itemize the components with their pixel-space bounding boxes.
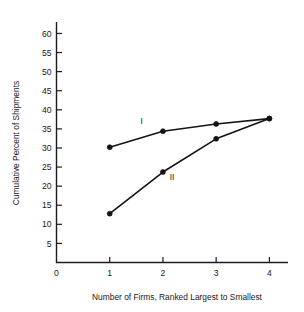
y-tick-label: 35 [42,124,52,134]
chart-tick-marks [57,33,270,262]
x-axis-title: Number of Firms, Ranked Largest to Small… [92,292,263,302]
y-tick-label: 10 [42,219,52,229]
series-label-I: I [140,116,142,126]
y-tick-label: 30 [42,143,52,153]
data-point-marker [267,116,272,121]
chart-axes [57,22,289,263]
y-tick-label: 20 [42,181,52,191]
chart-figure: 51015202530354045505560 01234 III Number… [0,0,304,312]
y-axis-tick-labels: 51015202530354045505560 [42,29,52,249]
data-point-marker [107,211,112,216]
data-point-marker [107,145,112,150]
x-axis-tick-labels: 01234 [54,268,272,278]
y-tick-label: 60 [42,29,52,39]
y-tick-label: 25 [42,162,52,172]
x-tick-label: 2 [161,268,166,278]
x-tick-label: 0 [54,268,59,278]
y-tick-label: 5 [47,239,52,249]
data-point-marker [214,136,219,141]
y-tick-label: 15 [42,200,52,210]
chart-data-point-markers [107,116,272,216]
y-tick-label: 45 [42,86,52,96]
y-tick-label: 55 [42,48,52,58]
data-point-marker [160,170,165,175]
data-point-marker [160,129,165,134]
x-tick-label: 4 [267,268,272,278]
series-line-II [110,119,270,214]
x-tick-label: 1 [107,268,112,278]
y-tick-label: 50 [42,67,52,77]
y-axis-title: Cumulative Percent of Shipments [11,81,21,205]
series-line-I [110,119,270,148]
chart-series-lines [110,119,270,214]
data-point-marker [214,121,219,126]
series-label-II: II [170,172,175,182]
x-tick-label: 3 [214,268,219,278]
y-tick-label: 40 [42,105,52,115]
axis-lines [57,22,289,263]
series-inline-labels: III [140,116,174,182]
line-chart-plot: 51015202530354045505560 01234 III Number… [0,0,304,312]
